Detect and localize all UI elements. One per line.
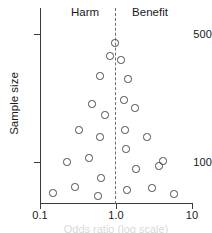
scatter-point [96, 133, 103, 140]
scatter-point [123, 186, 130, 193]
scatter-point [75, 126, 82, 133]
scatter-point [49, 189, 56, 196]
scatter-point [131, 104, 138, 111]
y-axis-tick-label: 100 [178, 157, 212, 168]
scatter-point [85, 154, 92, 161]
scatter-point [132, 165, 139, 172]
scatter-point [155, 162, 162, 169]
scatter-point [96, 72, 103, 79]
scatter-point [88, 100, 95, 107]
null-effect-reference-line [115, 8, 116, 204]
scatter-point [63, 158, 70, 165]
x-axis-tick-label: 10 [172, 210, 212, 221]
funnel-plot-figure: Harm Benefit 500100 0.11.010 Sample size… [0, 0, 212, 233]
scatter-point [122, 145, 129, 152]
x-axis-title: Odds ratio (log scale) [40, 224, 192, 233]
scatter-point [148, 184, 155, 191]
scatter-point [143, 133, 150, 140]
scatter-point [124, 75, 131, 82]
x-axis-tick-label: 0.1 [20, 210, 60, 221]
scatter-point [106, 52, 113, 59]
y-axis-title: Sample size [8, 44, 21, 164]
scatter-point [97, 174, 104, 181]
y-axis-tick [34, 34, 41, 35]
y-axis-tick [34, 162, 41, 163]
scatter-point [120, 96, 127, 103]
region-label-harm: Harm [53, 6, 117, 19]
scatter-point [121, 126, 128, 133]
scatter-point [101, 111, 108, 118]
scatter-point [94, 192, 101, 199]
region-label-benefit: Benefit [118, 6, 182, 19]
y-axis-tick-label: 500 [178, 29, 212, 40]
x-axis-tick-label: 1.0 [96, 210, 136, 221]
y-axis-line [40, 8, 41, 204]
scatter-point [170, 190, 177, 197]
scatter-point [117, 56, 124, 63]
scatter-point [111, 39, 118, 46]
scatter-point [71, 183, 78, 190]
